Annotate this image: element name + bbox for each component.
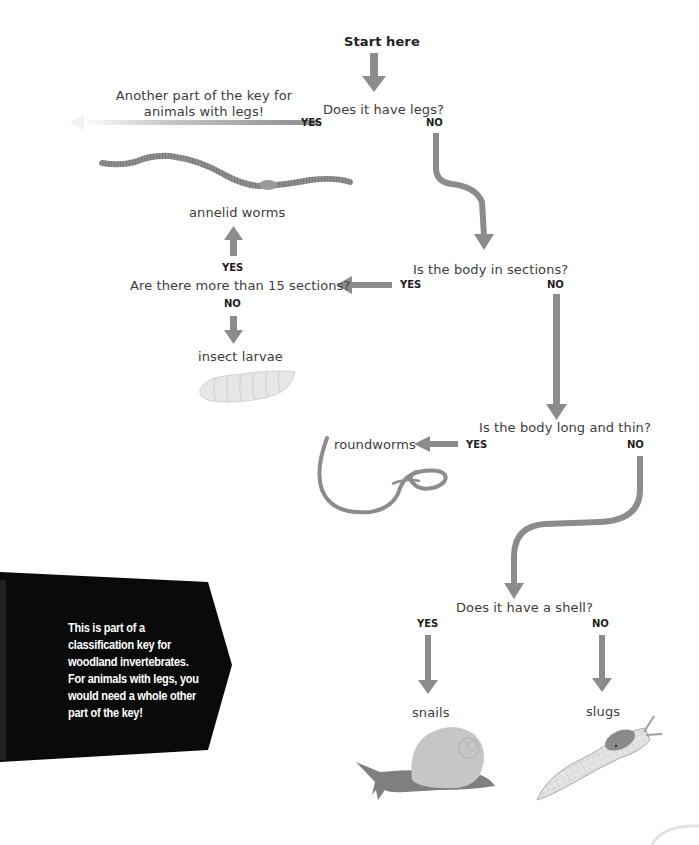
- q3-no-label: NO: [224, 298, 241, 309]
- snail-illustration: [356, 727, 495, 800]
- question-has-legs: Does it have legs?: [323, 102, 444, 117]
- question-has-shell: Does it have a shell?: [456, 600, 593, 615]
- outcome-insect-larvae: insect larvae: [198, 349, 283, 364]
- legs-outcome-line1: Another part of the key for: [98, 88, 310, 104]
- outcome-slugs: slugs: [586, 704, 620, 719]
- arrow-q3-yes-to-annelid: [224, 226, 243, 256]
- question-more-than-15-sections: Are there more than 15 sections?: [130, 278, 350, 293]
- legs-outcome-line2: animals with legs!: [98, 104, 310, 120]
- arrow-start-to-q1: [362, 53, 386, 92]
- outcome-roundworms: roundworms: [334, 437, 416, 452]
- arrow-q1-no-to-q2: [436, 133, 494, 250]
- arrow-q2-no-to-q4: [546, 294, 567, 420]
- q2-no-label: NO: [547, 279, 564, 290]
- insect-larva-illustration: [200, 371, 295, 403]
- annelid-worm-illustration: [102, 156, 350, 190]
- outcome-snails: snails: [412, 705, 450, 720]
- arrow-q5-no-to-slugs: [592, 635, 612, 692]
- q3-yes-label: YES: [222, 262, 243, 273]
- q2-yes-label: YES: [400, 279, 421, 290]
- outcome-annelid-worms: annelid worms: [189, 205, 286, 220]
- slug-illustration: [537, 716, 662, 800]
- arrow-q4-yes-to-roundworms: [414, 436, 458, 452]
- q4-no-label: NO: [627, 439, 644, 450]
- q1-no-label: NO: [426, 117, 443, 128]
- q1-yes-label: YES: [301, 117, 322, 128]
- page-corner-shadow: [652, 826, 699, 845]
- arrow-q3-no-to-larvae: [224, 316, 243, 344]
- q5-yes-label: YES: [417, 618, 438, 629]
- question-long-and-thin: Is the body long and thin?: [479, 420, 651, 435]
- arrow-q5-yes-to-snails: [418, 635, 438, 694]
- start-label: Start here: [344, 34, 420, 49]
- legs-outcome: Another part of the key for animals with…: [98, 88, 310, 120]
- q4-yes-label: YES: [466, 439, 487, 450]
- arrow-q4-no-to-q5: [504, 456, 640, 599]
- note-text: This is part of a classification key for…: [68, 620, 200, 722]
- question-body-in-sections: Is the body in sections?: [413, 262, 568, 277]
- q5-no-label: NO: [592, 618, 609, 629]
